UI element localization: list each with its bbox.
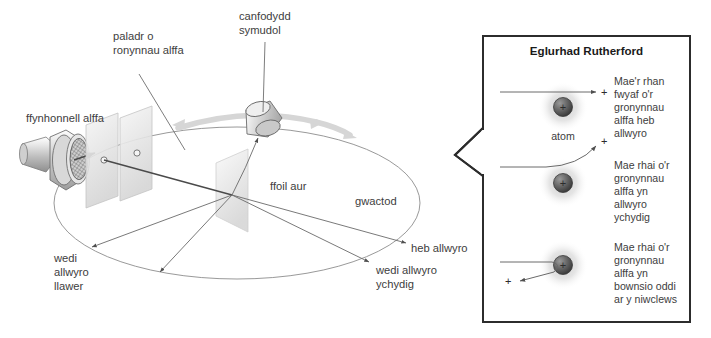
alpha-charge-1: +	[601, 86, 607, 98]
leader-lines	[139, 42, 265, 150]
label-gold-foil: ffoil aur	[270, 180, 307, 192]
panel-caption-3-line5: ar y niwclews	[614, 293, 677, 305]
label-deflected-a-lot-line3: llawer	[54, 280, 83, 292]
panel-caption-3-line4: bownsio oddi	[614, 280, 676, 292]
panel-caption-1-line5: allwyro	[614, 127, 647, 139]
trajectory-slightly-deflected	[232, 195, 369, 262]
panel-caption-3-line1: Mae rhai o'r	[614, 241, 670, 253]
experiment-scene: ffynhonnell alffa paladr o ronynnau alff…	[20, 10, 468, 292]
label-alpha-beam-line2: ronynnau alffa	[113, 44, 184, 56]
nucleus-charge-2: +	[560, 177, 566, 189]
panel-caption-3-line2: gronynnau	[614, 254, 664, 266]
panel-row-backscattered: + + Mae rhai o'r gronynnau alffa yn bown…	[500, 240, 677, 305]
label-vacuum: gwactod	[355, 195, 397, 207]
panel-caption-2-line1: Mae rhai o'r	[614, 159, 670, 171]
label-deflected-a-lot-line1: wedi	[53, 252, 77, 264]
alpha-charge-2: +	[601, 135, 607, 147]
alpha-charge-3: +	[505, 275, 511, 287]
label-deflected-a-lot-line2: allwyro	[54, 266, 89, 278]
trajectory-strongly-deflected	[160, 195, 232, 272]
panel-caption-2-line2: gronynnau	[614, 172, 664, 184]
nucleus-charge-3: +	[560, 259, 566, 271]
panel-row-undeflected: + + atom Mae'r rhan fwyaf o'r gronynnau …	[500, 75, 664, 142]
gold-foil-target	[216, 149, 248, 232]
panel-caption-1-line1: Mae'r rhan	[614, 75, 664, 87]
label-alpha-source: ffynhonnell alffa	[26, 112, 105, 124]
panel-caption-2-line4: allwyro	[614, 198, 647, 210]
label-alpha-beam-line1: paladr o	[113, 30, 153, 42]
rutherford-scattering-figure: ffynhonnell alffa paladr o ronynnau alff…	[0, 0, 711, 338]
panel-caption-2-line3: alffa yn	[614, 185, 648, 197]
collimator-plate-2	[120, 106, 152, 201]
label-deflected-slightly-line1: wedi allwyro	[375, 264, 437, 276]
rutherford-explanation-panel: Eglurhad Rutherford + + atom Mae'r rhan …	[455, 36, 690, 322]
panel-caption-1-line3: gronynnau	[614, 101, 664, 113]
panel-caption-1-line2: fwyaf o'r	[614, 88, 654, 100]
panel-caption-1-line4: alffa heb	[614, 114, 655, 126]
panel-title: Eglurhad Rutherford	[530, 44, 643, 57]
trajectory-backscattered	[92, 195, 232, 247]
panel-caption-2-line5: ychydig	[614, 211, 650, 223]
panel-row-slightly-deflected: + + Mae rhai o'r gronynnau alffa yn allw…	[500, 135, 670, 223]
panel-caption-3-line3: alffa yn	[614, 267, 648, 279]
label-deflected-slightly-line2: ychydig	[376, 278, 414, 290]
atom-caption: atom	[551, 130, 575, 142]
label-detector-line2: symudol	[239, 24, 281, 36]
alpha-source-apparatus	[20, 130, 96, 190]
nucleus-charge-1: +	[560, 101, 566, 113]
label-undeflected: heb allwyro	[411, 242, 468, 254]
alpha-source-stem	[20, 137, 55, 172]
collimator-plate-1	[86, 113, 118, 208]
label-detector-line1: canfodydd	[239, 10, 291, 22]
